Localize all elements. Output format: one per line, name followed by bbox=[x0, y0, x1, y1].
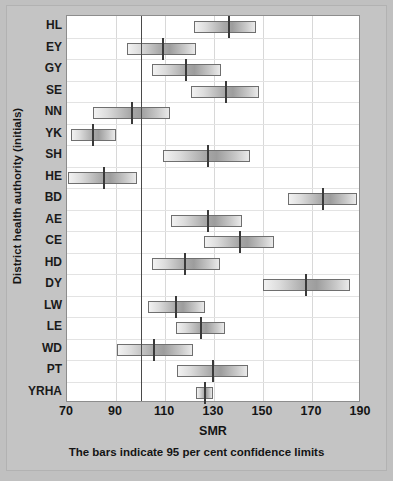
point-estimate-lw bbox=[175, 296, 177, 318]
point-estimate-ce bbox=[239, 231, 241, 253]
y-tick-label-hd: HD bbox=[0, 252, 62, 274]
confidence-bar-hl bbox=[194, 21, 255, 33]
point-estimate-dy bbox=[305, 274, 307, 296]
y-tick-label-le: LE bbox=[0, 316, 62, 338]
y-tick-label-wd: WD bbox=[0, 338, 62, 360]
point-estimate-sh bbox=[207, 145, 209, 167]
y-tick-label-ae: AE bbox=[0, 209, 62, 231]
x-tick-label-90: 90 bbox=[108, 404, 122, 418]
y-tick-label-dy: DY bbox=[0, 273, 62, 295]
point-estimate-yrha bbox=[204, 382, 206, 404]
figure-container: HLEYGYSENNYKSHHEBDAECEHDDYLWLEWDPTYRHA D… bbox=[0, 0, 393, 481]
point-estimate-hl bbox=[228, 16, 230, 38]
y-tick-label-he: HE bbox=[0, 166, 62, 188]
figure-caption: The bars indicate 95 per cent confidence… bbox=[6, 446, 387, 458]
x-tick-label-170: 170 bbox=[301, 404, 322, 418]
point-estimate-pt bbox=[212, 360, 214, 382]
y-tick-label-yk: YK bbox=[0, 123, 62, 145]
point-estimate-se bbox=[225, 81, 227, 103]
y-tick-label-sh: SH bbox=[0, 144, 62, 166]
y-tick-label-nn: NN bbox=[0, 101, 62, 123]
y-tick-label-lw: LW bbox=[0, 295, 62, 317]
y-tick-label-bd: BD bbox=[0, 187, 62, 209]
point-estimate-bd bbox=[322, 188, 324, 210]
y-tick-label-ce: CE bbox=[0, 230, 62, 252]
y-tick-label-yrha: YRHA bbox=[0, 381, 62, 403]
point-estimate-gy bbox=[185, 59, 187, 81]
reference-line-100 bbox=[141, 16, 142, 401]
point-estimate-nn bbox=[131, 102, 133, 124]
x-axis-title: SMR bbox=[66, 424, 360, 438]
x-tick-label-110: 110 bbox=[154, 404, 174, 418]
y-tick-label-pt: PT bbox=[0, 359, 62, 381]
y-tick-label-se: SE bbox=[0, 80, 62, 102]
point-estimate-yk bbox=[92, 124, 94, 146]
y-axis-title: District health authority (initials) bbox=[11, 31, 23, 361]
point-estimate-wd bbox=[153, 339, 155, 361]
x-tick-label-150: 150 bbox=[252, 404, 273, 418]
y-tick-label-hl: HL bbox=[0, 15, 62, 37]
x-tick-label-70: 70 bbox=[59, 404, 73, 418]
y-tick-label-ey: EY bbox=[0, 37, 62, 59]
y-tick-label-gy: GY bbox=[0, 58, 62, 80]
x-tick-label-130: 130 bbox=[203, 404, 224, 418]
x-tick-label-190: 190 bbox=[350, 404, 371, 418]
x-axis-tick-labels: 7090110130150170190 bbox=[66, 404, 360, 422]
confidence-bar-hd bbox=[152, 258, 221, 270]
confidence-bar-wd bbox=[117, 344, 193, 356]
point-estimate-ae bbox=[207, 210, 209, 232]
point-estimate-ey bbox=[162, 38, 164, 60]
point-estimate-le bbox=[200, 317, 202, 339]
point-estimate-he bbox=[103, 167, 105, 189]
point-estimate-hd bbox=[184, 253, 186, 275]
